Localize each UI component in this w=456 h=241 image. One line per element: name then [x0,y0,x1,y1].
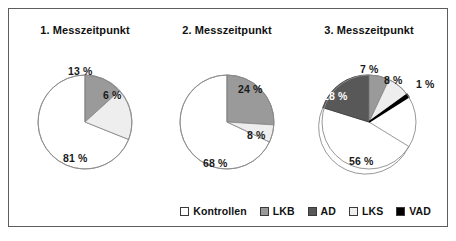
chart-panel-3: 3. Messzeitpunkt 7 % 8 % [297,19,441,199]
pie-chart-1: 13 % 6 % 81 % [13,47,157,192]
legend-label-kontrollen: Kontrollen [193,205,247,217]
pie-3-label-kontrollen: 56 % [349,155,373,167]
pie-3-label-ad: 28 % [323,90,347,102]
legend-swatch-ad-icon [308,207,317,216]
figure-frame: 1. Messzeitpunkt 13 % 6 % 81 % 2. [8,8,448,227]
legend-item-lks[interactable]: LKS [349,205,383,217]
pie-2-label-lks: 8 % [247,129,265,141]
legend-label-lkb: LKB [273,205,295,217]
legend-item-vad[interactable]: VAD [396,205,431,217]
chart-panel-2: 2. Messzeitpunkt 24 % 8 % 68 % [155,19,299,199]
legend-swatch-vad-icon [396,207,405,216]
legend: Kontrollen LKB AD LKS VAD [9,202,449,220]
legend-swatch-kontrollen-icon [180,207,189,216]
legend-swatch-lkb-icon [260,207,269,216]
legend-label-vad: VAD [409,205,431,217]
legend-swatch-lks-icon [349,207,358,216]
legend-label-ad: AD [321,205,336,217]
pie-chart-3: 7 % 8 % 1 % 28 % 56 % [297,47,441,192]
pie-2-svg [155,47,299,192]
pie-2-label-lkb: 24 % [238,83,262,95]
figure-root: 1. Messzeitpunkt 13 % 6 % 81 % 2. [0,0,456,241]
legend-item-lkb[interactable]: LKB [260,205,295,217]
chart-panel-1: 1. Messzeitpunkt 13 % 6 % 81 % [13,19,157,199]
legend-item-kontrollen[interactable]: Kontrollen [180,205,247,217]
legend-label-lks: LKS [362,205,383,217]
pie-3-label-vad: 1 % [416,78,434,90]
pie-3-label-lks: 8 % [384,74,402,86]
panel-2-title: 2. Messzeitpunkt [155,24,299,36]
panel-3-title: 3. Messzeitpunkt [297,24,441,36]
pie-3-label-lkb: 7 % [360,63,378,75]
panel-1-title: 1. Messzeitpunkt [13,24,157,36]
pie-1-label-lks: 6 % [103,89,121,101]
pie-2-label-kontrollen: 68 % [203,157,227,169]
legend-item-ad[interactable]: AD [308,205,336,217]
pie-1-label-lkb: 13 % [68,65,92,77]
pie-1-label-kontrollen: 81 % [63,152,87,164]
pie-chart-2: 24 % 8 % 68 % [155,47,299,192]
